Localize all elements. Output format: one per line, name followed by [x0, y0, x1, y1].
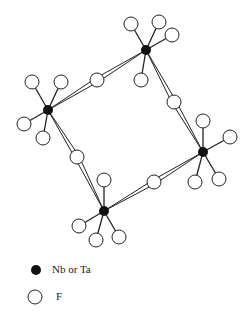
molecular-structure-diagram	[0, 0, 250, 318]
bridging-fluorine-atom	[90, 73, 104, 87]
bond	[146, 50, 176, 101]
terminal-fluorine-atom	[212, 172, 226, 186]
bridging-fluorine-atom	[147, 175, 161, 189]
legend-label-metal: Nb or Ta	[52, 263, 91, 275]
terminal-fluorine-atom	[72, 219, 86, 233]
legend-metal-icon	[31, 265, 41, 275]
terminal-fluorine-atom	[188, 175, 202, 189]
terminal-fluorine-atom	[152, 15, 166, 29]
terminal-fluorine-atom	[223, 130, 237, 144]
bond	[48, 110, 75, 158]
bridging-fluorine-atom	[167, 95, 181, 109]
terminal-fluorine-atom	[36, 131, 50, 145]
fluorine-atoms	[17, 15, 237, 247]
legend-symbols	[28, 265, 42, 304]
metal-atom	[198, 147, 208, 157]
bond	[172, 103, 203, 152]
bond	[146, 50, 172, 103]
legend-fluorine-icon	[28, 290, 42, 304]
bond	[48, 110, 79, 156]
legend-label-fluorine: F	[56, 290, 62, 302]
terminal-fluorine-atom	[25, 75, 39, 89]
terminal-fluorine-atom	[97, 173, 111, 187]
terminal-fluorine-atom	[112, 230, 126, 244]
metal-atom	[43, 105, 53, 115]
metal-atoms	[43, 45, 208, 216]
metal-atom	[99, 206, 109, 216]
metal-atom	[141, 45, 151, 55]
terminal-fluorine-atom	[134, 73, 148, 87]
bonds	[24, 22, 230, 240]
bond	[104, 184, 155, 211]
terminal-fluorine-atom	[89, 233, 103, 247]
terminal-fluorine-atom	[17, 117, 31, 131]
terminal-fluorine-atom	[124, 17, 138, 31]
bridging-fluorine-atom	[70, 150, 84, 164]
terminal-fluorine-atom	[196, 114, 210, 128]
terminal-fluorine-atom	[54, 75, 68, 89]
bond	[104, 180, 153, 211]
terminal-fluorine-atom	[165, 28, 179, 42]
